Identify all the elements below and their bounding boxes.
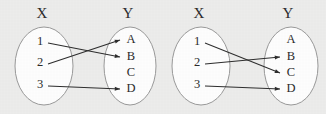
left-mapping-diagram-domain-ellipse [15,27,73,105]
left-mapping-diagram-domain-element-1: 1 [37,34,43,48]
left-mapping-diagram-domain-element-2: 2 [37,55,43,69]
right-mapping-diagram-domain-ellipse [172,27,230,105]
right-mapping-diagram-domain-title: X [194,5,205,21]
left-mapping-diagram: X123YABCD [15,5,156,105]
right-mapping-diagram: X123YABCD [172,5,318,105]
left-mapping-diagram-codomain-element-D: D [126,81,135,95]
mapping-diagrams-figure: X123YABCDX123YABCD [0,0,326,114]
left-mapping-diagram-codomain-element-B: B [127,49,135,63]
right-mapping-diagram-codomain-element-A: A [286,32,295,46]
right-mapping-diagram-codomain-element-C: C [287,65,295,79]
left-mapping-diagram-domain-element-3: 3 [37,77,43,91]
left-mapping-diagram-domain-set: X123 [15,5,73,105]
right-mapping-diagram-codomain-set: YABCD [264,5,318,105]
right-mapping-diagram-domain-element-2: 2 [194,55,200,69]
left-mapping-diagram-domain-title: X [37,5,48,21]
right-mapping-diagram-codomain-element-B: B [287,49,295,63]
right-mapping-diagram-codomain-element-D: D [286,81,295,95]
right-mapping-diagram-domain-element-3: 3 [194,77,200,91]
right-mapping-diagram-codomain-title: Y [283,5,294,21]
right-mapping-diagram-domain-set: X123 [172,5,230,105]
right-mapping-diagram-domain-element-1: 1 [194,34,200,48]
left-mapping-diagram-codomain-title: Y [123,5,134,21]
figure-canvas: X123YABCDX123YABCD [0,0,326,114]
left-mapping-diagram-codomain-element-A: A [126,32,135,46]
left-mapping-diagram-codomain-element-C: C [127,65,135,79]
